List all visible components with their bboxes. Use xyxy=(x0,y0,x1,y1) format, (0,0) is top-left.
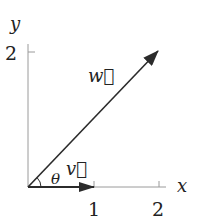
y-tick-label-2: 2 xyxy=(5,42,17,64)
angle-arc xyxy=(37,178,41,187)
theta-label: θ xyxy=(51,170,60,188)
x-tick-label-1: 1 xyxy=(88,198,100,219)
x-axis-label: x xyxy=(177,175,187,196)
y-axis-label: y xyxy=(9,13,21,34)
vector-v-label: v⃗ xyxy=(66,158,87,179)
vector-diagram: y 2 x 1 2 θ v⃗ w⃗ xyxy=(0,0,197,219)
vector-w-label: w⃗ xyxy=(88,65,114,86)
x-tick-label-2: 2 xyxy=(152,198,164,219)
